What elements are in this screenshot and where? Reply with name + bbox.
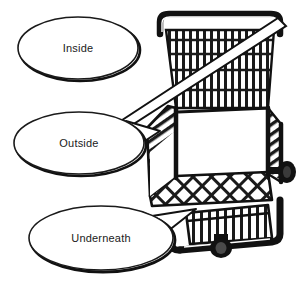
shopping-cart-diagram: Inside Outside Underneath bbox=[0, 0, 300, 287]
callout-underneath[interactable]: Underneath bbox=[29, 206, 175, 272]
callout-outside-label: Outside bbox=[59, 137, 98, 149]
illustration-canvas: Inside Outside Underneath bbox=[0, 0, 300, 287]
callout-underneath-label: Underneath bbox=[71, 232, 131, 244]
callout-inside[interactable]: Inside bbox=[18, 17, 140, 81]
callout-outside[interactable]: Outside bbox=[14, 112, 146, 176]
callout-inside-label: Inside bbox=[63, 42, 94, 54]
